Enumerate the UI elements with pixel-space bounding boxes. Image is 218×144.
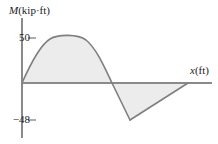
- y-tick-label-positive: 50: [0, 32, 30, 43]
- x-axis-units: (ft): [195, 64, 209, 76]
- moment-diagram-plot: [0, 0, 218, 144]
- y-axis-units: (kip·ft): [18, 4, 50, 16]
- bending-moment-figure: M(kip·ft) x(ft) 50 −48: [0, 0, 218, 144]
- x-axis-label: x(ft): [190, 65, 209, 76]
- negative-moment-fill-region: [112, 83, 188, 120]
- y-tick-label-negative: −48: [0, 114, 30, 125]
- y-axis-label: M(kip·ft): [9, 5, 50, 16]
- y-axis-symbol: M: [9, 4, 18, 16]
- positive-moment-fill-region: [22, 35, 112, 83]
